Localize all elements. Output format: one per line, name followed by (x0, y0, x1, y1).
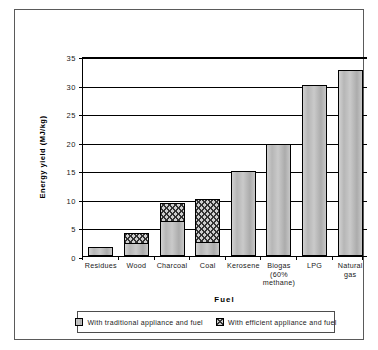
bar-group: Charcoal (154, 58, 190, 256)
bar-segment-efficient[interactable] (195, 199, 220, 242)
bar-group: Biogas (60% methane) (261, 58, 297, 256)
x-axis-tick (362, 256, 363, 260)
x-axis-tick (154, 256, 155, 260)
bar-stack[interactable] (231, 171, 256, 256)
chart-legend: With traditional appliance and fuelWith … (77, 311, 335, 333)
legend-swatch-traditional (75, 318, 83, 326)
x-axis-tick (332, 256, 333, 260)
legend-label: With efficient appliance and fuel (228, 319, 337, 326)
legend-swatch-efficient (216, 318, 224, 326)
bar-stack[interactable] (124, 233, 149, 256)
bar-stack[interactable] (160, 203, 185, 256)
bar-stack[interactable] (266, 144, 291, 256)
y-axis-tick-label: 20 (66, 139, 76, 148)
y-axis-tick-label: 30 (66, 82, 76, 91)
y-axis-tick-label: 15 (66, 168, 76, 177)
bar-segment-efficient[interactable] (124, 233, 149, 243)
legend-label: With traditional appliance and fuel (87, 319, 203, 326)
bar-stack[interactable] (338, 70, 363, 256)
y-axis-tick-label: 10 (66, 196, 76, 205)
bar-segment-traditional[interactable] (124, 243, 149, 256)
y-axis-tick-label: 35 (66, 54, 76, 63)
figure-frame: Energy yield (MJ/kg) 05101520253035Resid… (14, 9, 364, 340)
y-axis-tick-label: 5 (71, 225, 76, 234)
bar-group: Wood (119, 58, 155, 256)
bar-group: Natural gas (332, 58, 368, 256)
bar-group: Residues (83, 58, 119, 256)
x-axis-title: Fuel (82, 295, 367, 304)
bar-segment-traditional[interactable] (195, 242, 220, 256)
bar-group: Kerosene (226, 58, 262, 256)
x-axis-category-label: Natural gas (321, 262, 378, 279)
bar-stack[interactable] (195, 199, 220, 256)
bar-segment-traditional[interactable] (231, 171, 256, 256)
bar-segment-traditional[interactable] (88, 247, 113, 256)
plot-area: 05101520253035ResiduesWoodCharcoalCoalKe… (82, 57, 367, 257)
bar-segment-traditional[interactable] (266, 144, 291, 256)
x-axis-tick (296, 256, 297, 260)
x-axis-tick (260, 256, 261, 260)
bar-segment-traditional[interactable] (302, 85, 327, 256)
bar-segment-traditional[interactable] (160, 221, 185, 256)
bar-group: LPG (297, 58, 333, 256)
y-axis-title: Energy yield (MJ/kg) (37, 57, 48, 257)
x-axis-tick (189, 256, 190, 260)
bar-group: Coal (190, 58, 226, 256)
x-axis-tick (225, 256, 226, 260)
bar-stack[interactable] (302, 85, 327, 256)
legend-entry[interactable]: With efficient appliance and fuel (216, 318, 337, 326)
bar-segment-traditional[interactable] (338, 70, 363, 256)
x-axis-tick (118, 256, 119, 260)
x-axis-tick (82, 256, 83, 260)
bar-stack[interactable] (88, 247, 113, 256)
bar-segment-efficient[interactable] (160, 203, 185, 221)
y-axis-tick-label: 25 (66, 111, 76, 120)
legend-entry[interactable]: With traditional appliance and fuel (75, 318, 203, 326)
